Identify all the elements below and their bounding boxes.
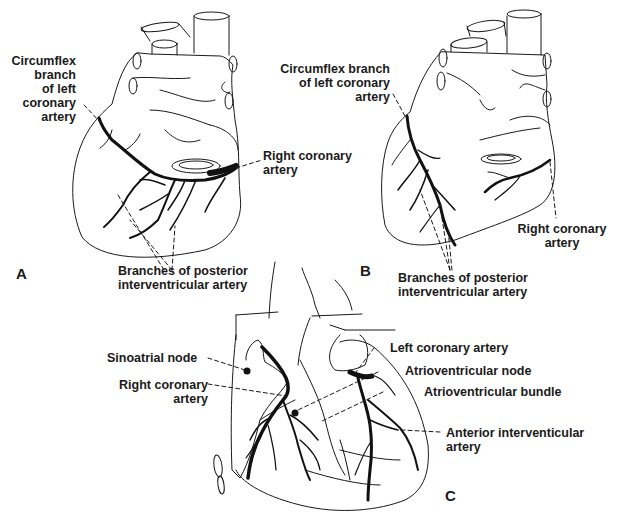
label-line: branch — [4, 68, 76, 82]
label-right-coronary-b: Right coronary artery — [510, 222, 614, 250]
label-circumflex-a: Circumflex branch of left coronary arter… — [4, 54, 76, 124]
leader-lines-c — [208, 348, 440, 432]
label-right-coronary-c: Right coronary artery — [100, 378, 208, 406]
label-av-bundle: Atrioventricular bundle — [424, 385, 562, 399]
coronary-arteries-c — [246, 347, 418, 500]
label-right-coronary-a: Right coronary artery — [263, 149, 352, 177]
heart-outline-b — [382, 52, 555, 245]
label-line: Right coronary — [100, 378, 208, 392]
heart-a — [73, 12, 262, 270]
label-line: artery — [4, 110, 76, 124]
heart-outline-a — [73, 53, 241, 257]
label-av-node: Atrioventricular node — [405, 364, 531, 378]
great-vessels-b — [437, 10, 551, 107]
label-anterior-interventricular: Anterior interventicular artery — [446, 426, 584, 454]
atrioventricular-node-dot — [292, 410, 299, 417]
label-line: Anterior interventicular — [446, 426, 584, 440]
label-line: artery — [263, 163, 352, 177]
label-line: artery — [510, 236, 614, 250]
coronary-arteries-a — [99, 118, 236, 238]
label-line: Right coronary — [510, 222, 614, 236]
label-line: artery — [446, 440, 584, 454]
label-posterior-branches-a: Branches of posterior interventricular a… — [118, 264, 248, 292]
label-posterior-branches-b: Branches of posterior interventricular a… — [398, 271, 528, 299]
label-line: artery — [100, 392, 208, 406]
label-line: Right coronary — [263, 149, 352, 163]
label-line: artery — [260, 90, 390, 104]
panel-letter-c: C — [445, 487, 456, 504]
label-line: interventricular artery — [398, 285, 528, 299]
label-sinoatrial-node: Sinoatrial node — [107, 351, 197, 365]
label-line: of left — [4, 82, 76, 96]
label-line: Circumflex branch — [260, 62, 390, 76]
leader-lines-a — [84, 105, 262, 270]
sinoatrial-node-dot — [244, 368, 251, 375]
label-line: Circumflex — [4, 54, 76, 68]
panel-letter-b: B — [360, 262, 371, 279]
label-circumflex-b: Circumflex branch of left coronary arter… — [260, 62, 390, 104]
label-line: interventricular artery — [118, 278, 248, 292]
aorta-c — [269, 262, 352, 318]
heart-c — [208, 262, 440, 510]
panel-letter-a: A — [16, 265, 27, 282]
label-line: Branches of posterior — [118, 264, 248, 278]
label-line: Branches of posterior — [398, 271, 528, 285]
great-vessels-a — [129, 12, 237, 109]
label-left-coronary: Left coronary artery — [390, 341, 508, 355]
label-line: of left coronary — [260, 76, 390, 90]
label-line: coronary — [4, 96, 76, 110]
